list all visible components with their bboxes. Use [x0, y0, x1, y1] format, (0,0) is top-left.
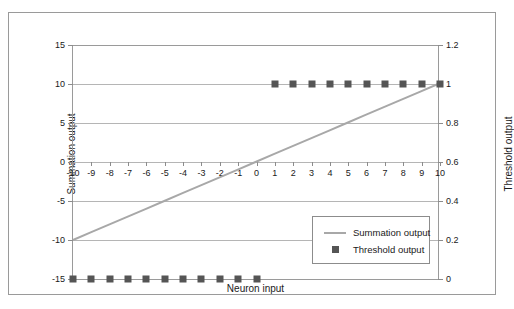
legend-square-marker-icon	[321, 246, 349, 253]
data-point-marker	[70, 276, 77, 283]
y-axis-right-tick	[438, 279, 443, 280]
data-point-marker	[400, 81, 407, 88]
data-point-marker	[235, 276, 242, 283]
y-axis-right-tick	[438, 240, 443, 241]
data-point-marker	[161, 276, 168, 283]
y-axis-left-tick-label: 5	[25, 118, 65, 128]
y-axis-left-tick-label: 0	[25, 157, 65, 167]
y-axis-right-tick-label: 0.6	[446, 157, 486, 167]
chart-legend: Summation output Threshold output	[312, 216, 430, 264]
legend-label-summation-output: Summation output	[349, 227, 430, 238]
data-point-marker	[106, 276, 113, 283]
data-point-marker	[363, 81, 370, 88]
y-axis-right-tick-label: 0.8	[446, 118, 486, 128]
y-axis-right-tick	[438, 201, 443, 202]
x-axis-title: Neuron input	[72, 283, 439, 294]
data-point-marker	[198, 276, 205, 283]
data-point-marker	[381, 81, 388, 88]
data-point-marker	[125, 276, 132, 283]
data-point-marker	[308, 81, 315, 88]
data-point-marker	[88, 276, 95, 283]
chart-outer-frame: Summation output Threshold output Neuron…	[8, 12, 496, 295]
y-axis-left-tick-label: -5	[25, 196, 65, 206]
y-axis-right-tick	[438, 123, 443, 124]
y-axis-right-tick-label: 0	[446, 274, 486, 284]
data-point-marker	[271, 81, 278, 88]
data-point-marker	[418, 81, 425, 88]
data-point-marker	[437, 81, 444, 88]
legend-item-summation-output: Summation output	[313, 224, 429, 241]
data-point-marker	[326, 81, 333, 88]
y-axis-left-tick-label: 15	[25, 40, 65, 50]
x-axis-tick	[440, 162, 441, 166]
y-axis-right-tick-label: 0.4	[446, 196, 486, 206]
data-point-marker	[290, 81, 297, 88]
y-axis-left-tick-label: -10	[25, 235, 65, 245]
data-point-marker	[143, 276, 150, 283]
y-axis-right-tick	[438, 45, 443, 46]
y-axis-right-tick-label: 1.2	[446, 40, 486, 50]
y-axis-left-tick-label: -15	[25, 274, 65, 284]
y-axis-right-tick-label: 1	[446, 79, 486, 89]
data-point-marker	[180, 276, 187, 283]
data-point-marker	[253, 276, 260, 283]
legend-item-threshold-output: Threshold output	[313, 241, 429, 258]
legend-label-threshold-output: Threshold output	[349, 244, 424, 255]
data-point-marker	[216, 276, 223, 283]
legend-line-icon	[321, 232, 349, 234]
y-axis-right-tick-label: 0.2	[446, 235, 486, 245]
y-axis-title-right: Threshold output	[503, 116, 514, 191]
data-point-marker	[345, 81, 352, 88]
y-axis-left-tick-label: 10	[25, 79, 65, 89]
